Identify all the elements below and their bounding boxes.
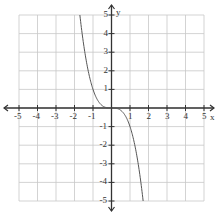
x-tick-label: -4 [33,112,41,121]
y-tick-label: 2 [104,66,109,75]
y-tick-label: -4 [100,177,108,186]
y-tick-label: -5 [100,196,108,205]
x-tick-label: -1 [88,112,96,121]
y-tick-label: -3 [100,159,108,168]
x-tick-label: 3 [165,112,170,121]
x-tick-label: -2 [70,112,78,121]
y-tick-label: -2 [100,140,108,149]
y-tick-label: 3 [104,47,109,56]
y-tick-label: 5 [104,10,109,19]
x-tick-label: -3 [51,112,59,121]
x-tick-label: 1 [128,112,133,121]
y-tick-label: 1 [104,84,109,93]
x-axis-label: x [210,113,215,122]
x-tick-label: 4 [184,112,189,121]
y-tick-label: -1 [100,122,108,131]
x-tick-label: 5 [202,112,207,121]
y-tick-label: 4 [104,29,109,38]
y-axis-label: y [116,8,121,17]
x-tick-label: 2 [147,112,152,121]
x-tick-label: -5 [14,112,22,121]
coordinate-plane [0,0,219,214]
